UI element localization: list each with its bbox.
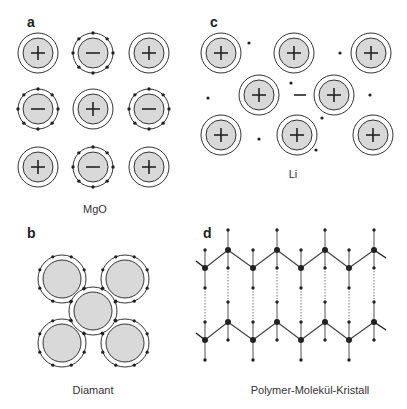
electron-dot (147, 87, 150, 90)
electron-dot (101, 332, 104, 335)
electron-dot (69, 319, 72, 322)
electron-dot (133, 300, 136, 303)
electron-dot (127, 107, 130, 110)
panel-a-label: a (27, 14, 35, 30)
electron-dot (111, 51, 114, 54)
electron-dot (146, 351, 149, 354)
free-electron (314, 148, 317, 151)
hydrogen-atom (299, 248, 302, 251)
hydrogen-atom (372, 300, 375, 303)
electron-dot (105, 151, 108, 154)
panel-c-caption: Li (258, 168, 328, 180)
hydrogen-atom (372, 266, 375, 269)
electron-dot (83, 268, 86, 271)
panel-d-caption: Polymer-Molekül-Kristall (225, 384, 395, 396)
free-electron (247, 41, 250, 44)
electron-dot (70, 255, 73, 258)
electron-dot (161, 93, 164, 96)
hydrogen-atom (323, 300, 326, 303)
carbon-atom (274, 247, 280, 253)
electron-dot (147, 127, 150, 130)
hydrogen-atom (203, 286, 206, 289)
electron-dot (82, 332, 85, 335)
electron-dot (50, 121, 53, 124)
panel-c-label: c (210, 14, 218, 30)
hydrogen-atom (372, 228, 375, 231)
electron-dot (105, 37, 108, 40)
electron-dot (146, 332, 149, 335)
hydrogen-atom (275, 300, 278, 303)
electron-dot (56, 107, 59, 110)
carbon-atom (322, 319, 328, 325)
electron-dot (51, 300, 54, 303)
hydrogen-atom (299, 286, 302, 289)
electron-dot (91, 71, 94, 74)
hydrogen-atom (347, 286, 350, 289)
electron-dot (77, 151, 80, 154)
hydrogen-atom (275, 338, 278, 341)
electron-dot (36, 87, 39, 90)
arrow-icon (374, 250, 386, 258)
electron-dot (38, 332, 41, 335)
panel-b-caption: Diamant (58, 384, 128, 396)
electron-dot (51, 255, 54, 258)
electron-dot (101, 287, 104, 290)
hydrogen-atom (226, 300, 229, 303)
hydrogen-atom (203, 248, 206, 251)
hydrogen-atom (323, 266, 326, 269)
arrow-icon (196, 261, 205, 268)
electron-dot (83, 351, 86, 354)
electron-dot (71, 165, 74, 168)
electron-dot (77, 179, 80, 182)
electron-dot (70, 364, 73, 367)
hydrogen-atom (275, 228, 278, 231)
electron-dot (133, 364, 136, 367)
carbon-atom (346, 265, 352, 271)
hydrogen-atom (251, 248, 254, 251)
carbon-atom (225, 247, 231, 253)
free-electron (320, 116, 323, 119)
electron-dot (133, 93, 136, 96)
electron-dot (105, 179, 108, 182)
hydrogen-atom (203, 358, 206, 361)
carbon-atom (298, 337, 304, 343)
carbon-atom (298, 265, 304, 271)
electron-dot (91, 185, 94, 188)
hydrogen-atom (299, 358, 302, 361)
hydrogen-atom (251, 286, 254, 289)
free-electron (257, 137, 260, 140)
electron-dot (146, 268, 149, 271)
electron-dot (111, 165, 114, 168)
electron-dot (105, 65, 108, 68)
hydrogen-atom (251, 320, 254, 323)
electron-dot (51, 319, 54, 322)
carbon-atom (322, 247, 328, 253)
electron-dot (114, 255, 117, 258)
electron-dot (101, 351, 104, 354)
electron-dot (16, 107, 19, 110)
hydrogen-atom (299, 320, 302, 323)
carbon-atom (274, 319, 280, 325)
electron-dot (22, 121, 25, 124)
electron-dot (133, 121, 136, 124)
hydrogen-atom (251, 358, 254, 361)
electron-dot (51, 364, 54, 367)
electron-dot (77, 37, 80, 40)
electron-dot (71, 51, 74, 54)
electron-dot (69, 300, 72, 303)
hydrogen-atom (203, 320, 206, 323)
hydrogen-atom (226, 228, 229, 231)
hydrogen-atom (323, 338, 326, 341)
hydrogen-atom (323, 228, 326, 231)
hydrogen-atom (347, 358, 350, 361)
electron-dot (114, 300, 117, 303)
hydrogen-atom (226, 338, 229, 341)
electron-dot (36, 127, 39, 130)
carbon-atom (250, 265, 256, 271)
carbon-atom (225, 319, 231, 325)
electron-dot (114, 319, 117, 322)
free-electron (338, 51, 341, 54)
electron-dot (133, 319, 136, 322)
carbon-atom (346, 337, 352, 343)
electron-dot (50, 93, 53, 96)
